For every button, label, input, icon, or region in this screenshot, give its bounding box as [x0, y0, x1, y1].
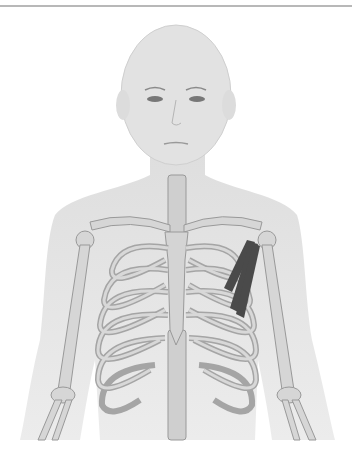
anatomy-illustration	[0, 0, 352, 467]
